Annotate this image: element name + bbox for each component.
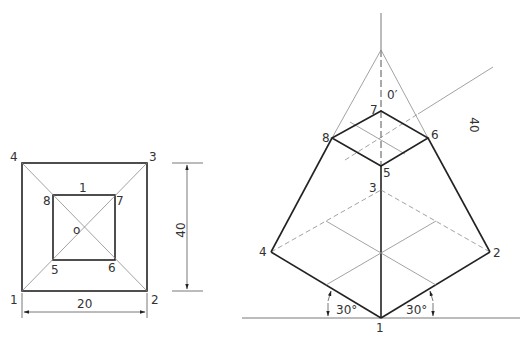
iso-label-1: 1 — [376, 321, 384, 335]
construction-top-cross — [350, 122, 405, 154]
iso-angle-left: 30° — [336, 303, 357, 317]
plan-label-5: 5 — [51, 263, 59, 277]
edge-2-6 — [428, 138, 490, 252]
plan-label-2: 2 — [151, 293, 159, 307]
iso-angle-right: 30° — [406, 303, 427, 317]
angle-arrow-left-up — [328, 291, 331, 301]
plan-label-3: 3 — [149, 150, 157, 164]
iso-label-2: 2 — [493, 246, 501, 260]
plan-label-4: 4 — [10, 150, 18, 164]
iso-label-8: 8 — [322, 131, 330, 145]
iso-label-6: 6 — [431, 128, 439, 142]
iso-label-4: 4 — [259, 245, 267, 259]
plan-width-dimension: 20 — [77, 297, 92, 311]
plan-label-6: 6 — [108, 261, 116, 275]
plan-top-face-label: 1 — [79, 181, 87, 195]
iso-height-dimension: 40 — [467, 117, 481, 132]
plan-center-label: o — [73, 223, 80, 237]
isometric-view — [242, 13, 520, 318]
plan-label-7: 7 — [116, 194, 124, 208]
plan-height-dimension: 40 — [174, 222, 188, 237]
iso-label-3: 3 — [369, 181, 377, 195]
iso-label-7: 7 — [370, 103, 378, 117]
angle-arrow-right-up — [430, 291, 433, 301]
plan-label-8: 8 — [43, 194, 51, 208]
plan-view — [22, 163, 203, 318]
drawing-canvas: 1 2 3 4 5 6 7 8 1 o 20 40 — [0, 0, 530, 340]
construction-diagonal — [418, 67, 493, 114]
iso-apex-label: 0′ — [387, 88, 398, 102]
iso-label-5: 5 — [383, 166, 391, 180]
top-face — [332, 111, 428, 166]
plan-label-1: 1 — [10, 293, 18, 307]
